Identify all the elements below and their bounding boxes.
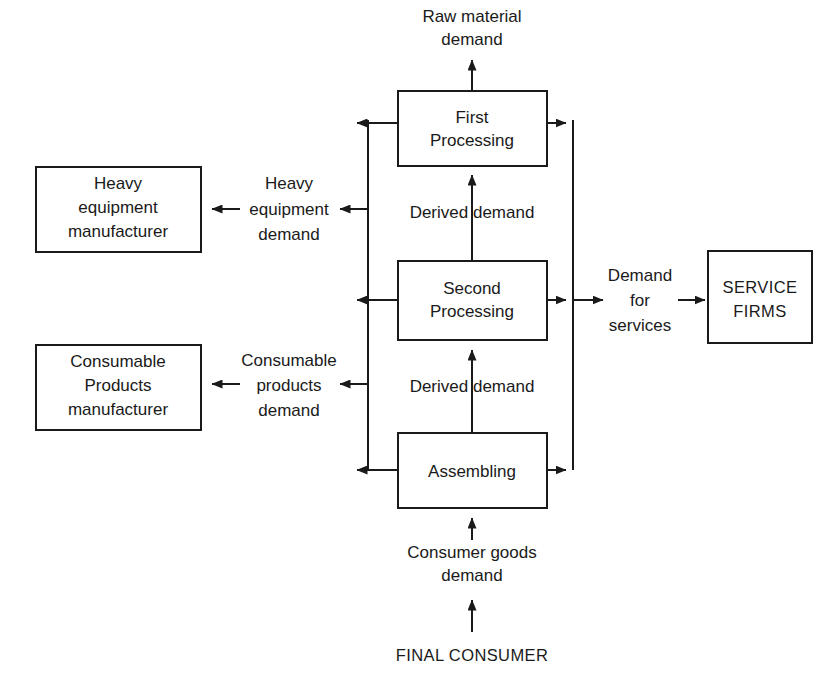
edge-label-raw-material-demand-line1: Raw material: [422, 7, 521, 26]
edge-label-derived-demand-upper: Derived demand: [410, 203, 535, 222]
edge-label-demand-for-services-line2: for: [630, 291, 650, 310]
node-first-processing-box: [398, 91, 547, 166]
derived-demand-diagram: First Processing Raw material demand Der…: [0, 0, 838, 677]
node-assembling-label: Assembling: [428, 462, 516, 481]
node-first-processing-label-line2: Processing: [430, 131, 514, 150]
edge-label-heavy-equipment-demand-line3: demand: [258, 225, 319, 244]
edge-label-demand-for-services-line3: services: [609, 316, 671, 335]
node-consumable-products-manufacturer-label-line2: Products: [84, 376, 151, 395]
node-second-processing-box: [398, 261, 547, 340]
node-second-processing-label-line2: Processing: [430, 302, 514, 321]
node-consumable-products-manufacturer-label-line1: Consumable: [70, 352, 165, 371]
edge-label-raw-material-demand-line2: demand: [441, 30, 502, 49]
edge-label-consumable-products-demand-line2: products: [256, 376, 321, 395]
node-first-processing-label-line1: First: [455, 108, 488, 127]
node-heavy-equipment-manufacturer-label-line3: manufacturer: [68, 222, 168, 241]
node-second-processing-label-line1: Second: [443, 279, 501, 298]
edge-label-consumer-goods-demand-line2: demand: [441, 566, 502, 585]
edge-label-heavy-equipment-demand-line2: equipment: [249, 200, 329, 219]
flow-svg: First Processing Raw material demand Der…: [0, 0, 838, 677]
edge-label-derived-demand-lower: Derived demand: [410, 377, 535, 396]
edge-label-consumable-products-demand-line1: Consumable: [241, 351, 336, 370]
node-heavy-equipment-manufacturer-label-line2: equipment: [78, 198, 158, 217]
node-service-firms-label-line2: FIRMS: [733, 302, 786, 320]
node-consumable-products-manufacturer-label-line3: manufacturer: [68, 400, 168, 419]
edge-label-consumable-products-demand-line3: demand: [258, 401, 319, 420]
node-service-firms-box: [708, 251, 812, 343]
edge-label-demand-for-services-line1: Demand: [608, 266, 672, 285]
edge-label-heavy-equipment-demand-line1: Heavy: [265, 174, 314, 193]
node-final-consumer-label: FINAL CONSUMER: [396, 646, 549, 664]
edge-label-consumer-goods-demand-line1: Consumer goods: [407, 543, 536, 562]
node-service-firms-label-line1: SERVICE: [723, 278, 798, 296]
node-heavy-equipment-manufacturer-label-line1: Heavy: [94, 174, 143, 193]
